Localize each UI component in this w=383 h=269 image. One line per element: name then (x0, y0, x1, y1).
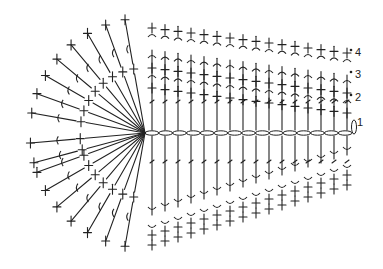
fan-spoke (32, 113, 76, 121)
chain-arc (330, 58, 338, 61)
chain-arc (278, 51, 286, 54)
chain-arc (76, 184, 78, 192)
chain-stitch (311, 131, 325, 135)
row-label-1: 1 (357, 116, 363, 128)
chain-stitch (324, 131, 338, 135)
fan-spoke (45, 168, 84, 191)
chain-arc (304, 55, 312, 58)
chain-arc (265, 50, 273, 53)
chain-arc (226, 201, 234, 204)
chain-arc (317, 173, 325, 176)
chain-stitch (228, 131, 242, 135)
chain-arc (174, 217, 182, 220)
row-label-3: 3 (355, 68, 361, 80)
fan-spoke (37, 157, 79, 172)
chain-arc (127, 213, 129, 221)
chain-arc (148, 35, 156, 38)
fan-spoke (93, 133, 145, 163)
chain-stitch (255, 131, 269, 135)
chain-arc (330, 169, 338, 172)
chain-stitch (159, 131, 173, 135)
chain-arc (252, 48, 260, 51)
chain-stitch (186, 131, 200, 135)
row-start-dot (350, 49, 353, 52)
chain-arc (278, 185, 286, 188)
chain-stitch (242, 131, 256, 135)
chain-arc (87, 194, 89, 202)
chain-arc (161, 221, 169, 224)
chain-arc (200, 209, 208, 212)
fan-spoke (37, 94, 79, 109)
chain-arc (252, 193, 260, 196)
fan-spoke (45, 76, 84, 99)
chain-arc (161, 36, 169, 39)
chain-stitch (173, 131, 187, 135)
chain-arc (317, 56, 325, 59)
chain-arc (62, 100, 64, 108)
turning-chain (352, 120, 357, 134)
chain-arc (59, 151, 61, 159)
chain-arc (99, 55, 101, 63)
row-start-dot (350, 94, 353, 97)
chain-stitch (145, 131, 159, 135)
chain-stitch (200, 131, 214, 135)
chain-arc (127, 45, 129, 53)
chain-arc (200, 41, 208, 44)
crochet-chart (0, 0, 383, 269)
dc-bar (345, 160, 349, 163)
chain-arc (76, 74, 78, 82)
chain-arc (174, 38, 182, 41)
chain-arc (213, 43, 221, 46)
chain-arc (148, 225, 156, 228)
chain-arc (291, 53, 299, 56)
fan-spoke (106, 199, 121, 241)
chain-arc (239, 46, 247, 49)
chain-arc (112, 49, 114, 57)
chain-arc (187, 40, 195, 43)
fan-spoke (88, 194, 111, 233)
row-start-dot (350, 71, 353, 74)
chain-arc (68, 172, 70, 180)
chain-stitch (338, 131, 352, 135)
chain-arc (343, 60, 351, 63)
chain-arc (226, 45, 234, 48)
chain-arc (99, 203, 101, 211)
chain-arc (213, 205, 221, 208)
fan-spoke (106, 25, 121, 67)
fan-spoke (34, 151, 77, 163)
chain-stitch (297, 131, 311, 135)
fan-spoke (30, 139, 75, 143)
row-label-2: 2 (355, 91, 361, 103)
chain-arc (343, 165, 351, 168)
chain-arc (112, 209, 114, 217)
fan-spoke (125, 20, 133, 64)
chain-stitch (214, 131, 228, 135)
chain-stitch (269, 131, 283, 135)
fan-spoke (125, 202, 133, 246)
dc-bar (332, 160, 336, 163)
chain-arc (68, 87, 70, 95)
fan-spoke (88, 33, 111, 72)
chain-arc (265, 189, 273, 192)
chain-arc (62, 158, 64, 166)
chain-arc (291, 181, 299, 184)
chain-arc (87, 64, 89, 72)
row-label-4: 4 (355, 46, 361, 58)
chain-arc (239, 197, 247, 200)
chain-arc (187, 213, 195, 216)
chain-stitch (283, 131, 297, 135)
chain-arc (304, 177, 312, 180)
